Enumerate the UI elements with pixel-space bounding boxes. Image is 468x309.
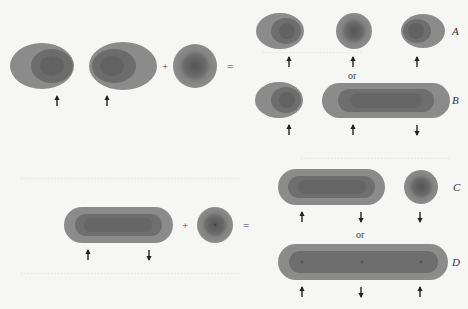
label-B: B bbox=[452, 94, 459, 106]
up-arrow-icon bbox=[286, 56, 291, 67]
result-A-ellipsoid-1 bbox=[256, 13, 304, 49]
up-arrow-icon bbox=[299, 211, 304, 222]
label-C: C bbox=[453, 181, 460, 193]
diagram-svg bbox=[0, 0, 468, 309]
label-A: A bbox=[452, 25, 459, 37]
equals-operator: = bbox=[243, 219, 249, 231]
or-connector: or bbox=[348, 70, 356, 81]
up-arrow-icon bbox=[54, 95, 59, 106]
down-arrow-icon bbox=[414, 125, 419, 136]
bottom-left-sphere bbox=[197, 207, 233, 243]
result-A-ellipsoid-2 bbox=[401, 14, 445, 48]
up-arrow-icon bbox=[286, 124, 291, 135]
plus-operator: + bbox=[182, 219, 188, 231]
top-left-ellipsoid-2 bbox=[89, 42, 157, 90]
up-arrow-icon bbox=[104, 95, 109, 106]
bottom-left-capsule bbox=[64, 207, 173, 243]
result-B-capsule bbox=[322, 83, 450, 118]
down-arrow-icon bbox=[417, 212, 422, 223]
up-arrow-icon bbox=[417, 286, 422, 297]
up-arrow-icon bbox=[299, 286, 304, 297]
up-arrow-icon bbox=[85, 249, 90, 260]
result-A-sphere bbox=[336, 13, 372, 49]
plus-operator: + bbox=[162, 60, 168, 72]
label-D: D bbox=[452, 256, 460, 268]
or-connector: or bbox=[356, 229, 364, 240]
result-C-sphere bbox=[404, 170, 438, 204]
down-arrow-icon bbox=[358, 287, 363, 298]
result-C-capsule bbox=[278, 169, 385, 205]
top-left-sphere bbox=[173, 44, 217, 88]
up-arrow-icon bbox=[350, 56, 355, 67]
diagram-figure: ………………………… ……………………………………… …………………………………… bbox=[0, 0, 468, 309]
result-B-ellipsoid bbox=[255, 82, 303, 118]
equals-operator: = bbox=[227, 60, 233, 72]
up-arrow-icon bbox=[414, 56, 419, 67]
top-left-ellipsoid-1 bbox=[10, 43, 74, 89]
down-arrow-icon bbox=[358, 212, 363, 223]
result-D-long-capsule bbox=[278, 244, 448, 280]
up-arrow-icon bbox=[350, 124, 355, 135]
down-arrow-icon bbox=[146, 250, 151, 261]
